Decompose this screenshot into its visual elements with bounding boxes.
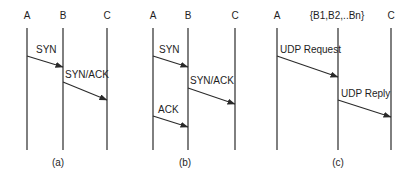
message-label-udp-reply: UDP Reply [341, 88, 390, 99]
arrow-syn-ack [63, 82, 107, 100]
node-label-a: A [274, 10, 281, 21]
message-label-syn: SYN [159, 44, 180, 55]
node-label-b: B [185, 10, 192, 21]
sequence-diagrams: A B C SYN SYN/ACK (a) A B C SYN SYN/ACK … [0, 0, 412, 182]
caption-b: (b) [179, 157, 191, 168]
arrow-ack [153, 116, 188, 127]
panel-b: A B C SYN SYN/ACK ACK (b) [150, 10, 239, 168]
node-label-a: A [150, 10, 157, 21]
arrow-syn [27, 56, 63, 67]
arrow-udp-request [277, 56, 338, 77]
arrow-syn [153, 56, 188, 67]
message-label-ack: ACK [158, 104, 179, 115]
node-label-b-group: {B1,B2,..Bn} [310, 10, 365, 21]
panel-a: A B C SYN SYN/ACK (a) [24, 10, 111, 168]
message-label-syn-ack: SYN/ACK [190, 75, 234, 86]
caption-c: (c) [332, 157, 344, 168]
panel-c: A {B1,B2,..Bn} C UDP Request UDP Reply (… [274, 10, 395, 168]
message-label-syn-ack: SYN/ACK [65, 69, 109, 80]
node-label-c: C [387, 10, 394, 21]
arrow-udp-reply [338, 100, 391, 117]
node-label-b: B [60, 10, 67, 21]
message-label-syn: SYN [36, 44, 57, 55]
arrow-syn-ack [188, 88, 235, 104]
node-label-a: A [24, 10, 31, 21]
node-label-c: C [231, 10, 238, 21]
message-label-udp-request: UDP Request [280, 44, 341, 55]
caption-a: (a) [52, 157, 64, 168]
node-label-c: C [103, 10, 110, 21]
